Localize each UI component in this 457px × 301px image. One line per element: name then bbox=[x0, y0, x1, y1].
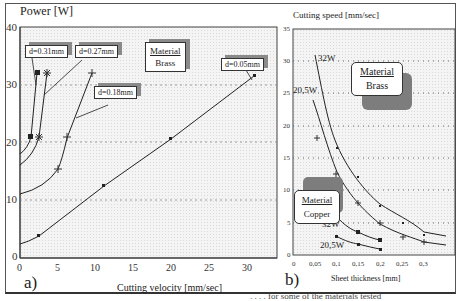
panel-b-xlabel: Sheet thickness [mm] bbox=[331, 274, 400, 283]
caption-fragment: . . . . for some of the materials tested bbox=[250, 291, 381, 301]
panel-b-ytick: 25 bbox=[283, 89, 290, 97]
panel-a-ytick: 40 bbox=[6, 21, 17, 33]
panel-a-ytick: 20 bbox=[6, 136, 17, 148]
panel-a-ylabel: Power [W] bbox=[20, 4, 73, 19]
label-brass-32w: 32W bbox=[318, 53, 336, 63]
material-copper-box: Material Copper bbox=[294, 190, 340, 224]
label-copper-205w: 20,5W bbox=[320, 240, 344, 250]
panel-b-xtick: 0,25 bbox=[396, 260, 408, 268]
panel-a-xtick: 0 bbox=[17, 262, 22, 273]
panel-b-ytick: 30 bbox=[283, 57, 290, 65]
panel-a-xlabel: Cutting velocity [mm/sec] bbox=[117, 282, 222, 293]
panel-b-xtick: 0,3 bbox=[419, 260, 428, 268]
panel-b-letter: b) bbox=[285, 270, 299, 290]
label-d031: d=0.31mm bbox=[25, 45, 68, 58]
panel-b-ytick: 0 bbox=[287, 251, 291, 259]
panel-a-letter: a) bbox=[24, 273, 37, 293]
label-d027: d=0.27mm bbox=[75, 45, 118, 58]
panel-a-xtick: 20 bbox=[166, 262, 176, 273]
panel-a-xtick: 10 bbox=[90, 262, 100, 273]
panel-b-ytick: 10 bbox=[283, 186, 290, 194]
panel-b-ytick: 20 bbox=[283, 122, 290, 130]
material-value: Brass bbox=[355, 79, 399, 93]
material-label: Material bbox=[355, 65, 399, 79]
panel-b-ytick: 5 bbox=[287, 219, 291, 227]
panel-b-ytick: 35 bbox=[283, 25, 290, 33]
panel-a-xtick: 30 bbox=[242, 262, 252, 273]
material-brass-box-b: Material Brass bbox=[351, 62, 403, 96]
panel-a-xtick: 25 bbox=[204, 262, 214, 273]
panel-b-xtick: 0,1 bbox=[332, 260, 341, 268]
panel-a-xtick: 15 bbox=[128, 262, 138, 273]
panel-b-xtick: 0,15 bbox=[352, 260, 364, 268]
panel-a-ytick: 30 bbox=[6, 78, 17, 90]
material-label: Material bbox=[298, 193, 336, 207]
material-brass-box-a: Material Brass bbox=[145, 42, 186, 72]
panel-b-xtick: 0 bbox=[292, 260, 296, 268]
panel-b-ylabel: Cutting speed [mm/sec] bbox=[293, 10, 379, 20]
label-d005: d=0.05mm bbox=[221, 58, 264, 71]
chart-canvas bbox=[0, 0, 457, 301]
material-value: Brass bbox=[150, 57, 181, 69]
panel-b-ytick: 15 bbox=[283, 154, 290, 162]
label-brass-205w: 20,5W bbox=[293, 85, 317, 95]
panel-a-ytick: 10 bbox=[6, 193, 17, 205]
material-label: Material bbox=[150, 45, 181, 57]
material-value: Copper bbox=[298, 207, 336, 221]
panel-b-xtick: 0,2 bbox=[376, 260, 385, 268]
label-d018: d=0.18mm bbox=[94, 86, 137, 99]
panel-a-ytick: 0 bbox=[12, 250, 18, 262]
panel-a-xtick: 5 bbox=[55, 262, 60, 273]
panel-b-xtick: 0,05 bbox=[309, 260, 321, 268]
